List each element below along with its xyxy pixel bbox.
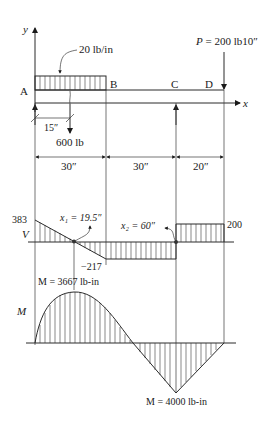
resultant-distance-label: 15″ — [44, 122, 58, 133]
moment-min-label: M = 4000 lb-in — [146, 396, 207, 407]
moment-max-label: M = 3667 lb-in — [38, 276, 99, 287]
point-load-label: P = 200 lb10″ — [195, 35, 258, 47]
span-cd-label: 20″ — [193, 160, 209, 172]
point-c-label: C — [171, 78, 178, 90]
shear-zero-point-2 — [174, 240, 178, 244]
resultant-force-label: 600 lb — [56, 136, 84, 148]
shear-start-value: 383 — [12, 214, 27, 225]
distributed-load-label: 20 lb/in — [79, 43, 113, 55]
x2-label: x₂ = 60″ — [120, 220, 156, 231]
x-axis-label: x — [242, 97, 248, 109]
shear-end-value: 200 — [227, 219, 242, 230]
moment-curve — [35, 292, 224, 393]
moment-diagram: M M = 3667 lb-in M = 4000 lb-in — [16, 276, 236, 407]
x1-label: x₁ = 19.5″ — [59, 212, 102, 223]
moment-axis-label: M — [16, 305, 27, 317]
y-axis-label: y — [22, 23, 28, 35]
distributed-load — [35, 76, 106, 90]
span-bc-label: 30″ — [133, 160, 149, 172]
resultant-leader — [70, 91, 71, 104]
shear-axis-label: V — [22, 228, 30, 240]
point-a-label: A — [20, 85, 28, 97]
shear-min-value: −217 — [81, 261, 102, 272]
load-leader — [60, 50, 77, 73]
beam-section: y x 20 lb/in A B C D P — [20, 23, 258, 392]
point-d-label: D — [205, 78, 213, 90]
beam-diagram: y x 20 lb/in A B C D P — [0, 0, 265, 426]
span-ab-label: 30″ — [61, 160, 77, 172]
point-b-label: B — [110, 78, 117, 90]
